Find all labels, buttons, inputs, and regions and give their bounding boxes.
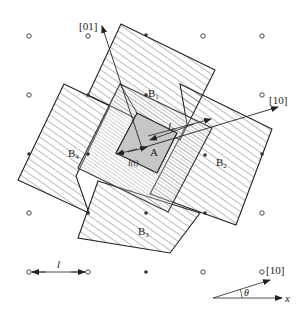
label-scale-l: l [57, 258, 60, 270]
edge-marker [260, 152, 264, 156]
edge-marker [27, 152, 31, 156]
edge-marker [144, 33, 148, 37]
edge-marker [86, 211, 90, 215]
lattice-point [260, 34, 264, 38]
lattice-point [201, 34, 205, 38]
lattice-point [27, 270, 31, 274]
lattice-point [27, 211, 31, 215]
edge-marker [203, 211, 207, 215]
lattice-point [27, 34, 31, 38]
label-dir-10: [10] [269, 94, 287, 106]
lattice-point [260, 93, 264, 97]
lattice-point [260, 211, 264, 215]
edge-marker [203, 153, 207, 157]
diagram-canvas: [01] [10] [10] B1 B2 B3 B4 A l0 l(t) l θ… [0, 0, 299, 319]
lattice-point [27, 93, 31, 97]
edge-marker [86, 93, 90, 97]
lattice-point [260, 270, 264, 274]
lattice-point [86, 270, 90, 274]
label-dir-01: [01] [79, 20, 97, 32]
label-dir-10-ref: [10] [266, 264, 284, 276]
edge-marker [86, 152, 90, 156]
label-theta: θ [244, 287, 249, 298]
lattice-point [86, 34, 90, 38]
label-lt: l(t) [128, 157, 139, 168]
theta-arc [240, 289, 242, 298]
label-x-axis: x [284, 292, 290, 304]
edge-marker [144, 211, 148, 215]
label-a: A [150, 146, 158, 158]
edge-marker [144, 270, 148, 274]
lattice-point [201, 270, 205, 274]
